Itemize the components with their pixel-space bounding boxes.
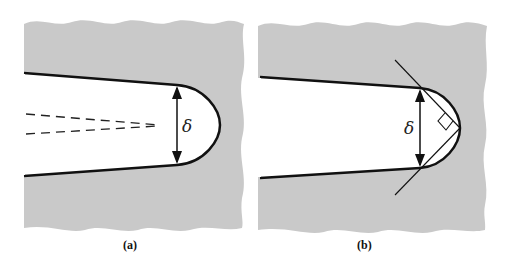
- delta-symbol-a: δ: [182, 116, 192, 136]
- crack-b: [260, 77, 460, 178]
- caption-a: (a): [123, 238, 137, 253]
- panel-b: δ: [258, 22, 487, 233]
- figure-canvas: δ δ: [0, 0, 508, 266]
- delta-symbol-b: δ: [404, 118, 414, 138]
- caption-b: (b): [357, 238, 372, 253]
- panel-a: δ: [22, 20, 244, 231]
